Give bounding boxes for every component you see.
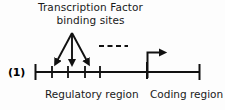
right-binding-arrow	[72, 33, 87, 61]
transcription-start-arrow	[148, 53, 161, 79]
coding-region-label: Coding region	[150, 88, 223, 100]
left-binding-arrow	[57, 33, 72, 61]
gene-structure-figure: Transcription Factor binding sites (1)	[0, 0, 225, 110]
regulatory-region-label: Regulatory region	[45, 88, 139, 100]
